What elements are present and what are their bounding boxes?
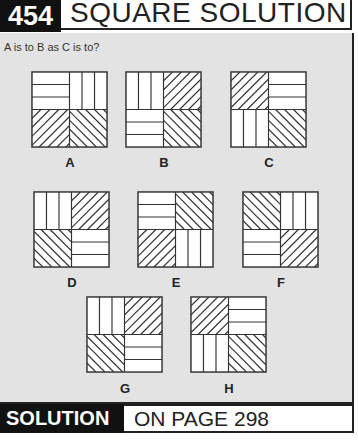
square-pattern xyxy=(242,191,319,268)
option-square-b[interactable] xyxy=(125,71,202,148)
option-square-e[interactable] xyxy=(137,191,214,268)
square-pattern xyxy=(33,191,110,268)
question-text: A is to B as C is to? xyxy=(4,41,99,53)
solution-label: SOLUTION xyxy=(0,404,124,433)
option-label-c: C xyxy=(259,155,279,170)
square-pattern xyxy=(230,71,307,148)
option-label-f: F xyxy=(271,275,291,290)
solution-page-reference: ON PAGE 298 xyxy=(124,404,354,433)
puzzle-title: SQUARE SOLUTION xyxy=(61,0,352,30)
option-square-f[interactable] xyxy=(242,191,319,268)
square-pattern xyxy=(125,71,202,148)
option-square-d[interactable] xyxy=(33,191,110,268)
option-label-h: H xyxy=(219,381,239,396)
option-square-g[interactable] xyxy=(86,296,163,373)
option-label-d: D xyxy=(62,275,82,290)
square-pattern xyxy=(86,296,163,373)
puzzle-number: 454 xyxy=(0,0,61,32)
option-label-a: A xyxy=(60,155,80,170)
option-label-g: G xyxy=(115,381,135,396)
square-pattern xyxy=(137,191,214,268)
square-pattern xyxy=(31,71,108,148)
square-pattern xyxy=(190,296,267,373)
option-square-h[interactable] xyxy=(190,296,267,373)
option-label-b: B xyxy=(154,155,174,170)
option-square-a[interactable] xyxy=(31,71,108,148)
option-square-c[interactable] xyxy=(230,71,307,148)
option-label-e: E xyxy=(166,275,186,290)
